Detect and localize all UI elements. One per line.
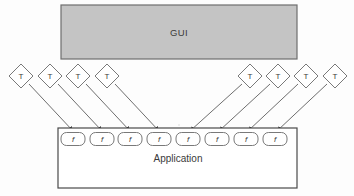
diagram-canvas: GUI Application ffffffff TTTTTTTT [0,0,354,196]
function-node-2[interactable]: f [118,133,142,146]
connector-arrow-4 [190,84,242,131]
connector-arrow-5 [219,84,270,131]
connector-arrow-6 [248,84,298,131]
function-node-3[interactable]: f [147,133,171,146]
test-node-label: T [19,72,24,81]
connector-arrow-1 [58,84,102,131]
function-node-1[interactable]: f [90,133,114,146]
test-nodes-group: TTTTTTTT [9,64,347,88]
function-node-0[interactable]: f [61,133,85,146]
test-node-label: T [333,72,338,81]
function-node-6[interactable]: f [234,133,258,146]
connector-arrow-3 [115,84,159,131]
application-box-label: Application [154,153,203,164]
function-node-4[interactable]: f [176,133,200,146]
gui-box-label: GUI [170,27,188,38]
test-node-label: T [48,72,53,81]
test-node-label: T [304,72,309,81]
connector-arrow-0 [29,84,73,131]
connector-arrow-2 [86,84,130,131]
gui-box[interactable]: GUI [61,5,297,59]
test-node-label: T [105,72,110,81]
test-node-label: T [76,72,81,81]
scan-speck [178,124,180,126]
test-node-label: T [276,72,281,81]
function-node-5[interactable]: f [205,133,229,146]
function-node-7[interactable]: f [263,133,287,146]
connector-arrow-7 [277,84,327,131]
architecture-diagram: GUI Application ffffffff TTTTTTTT [0,0,354,196]
test-node-label: T [248,72,253,81]
